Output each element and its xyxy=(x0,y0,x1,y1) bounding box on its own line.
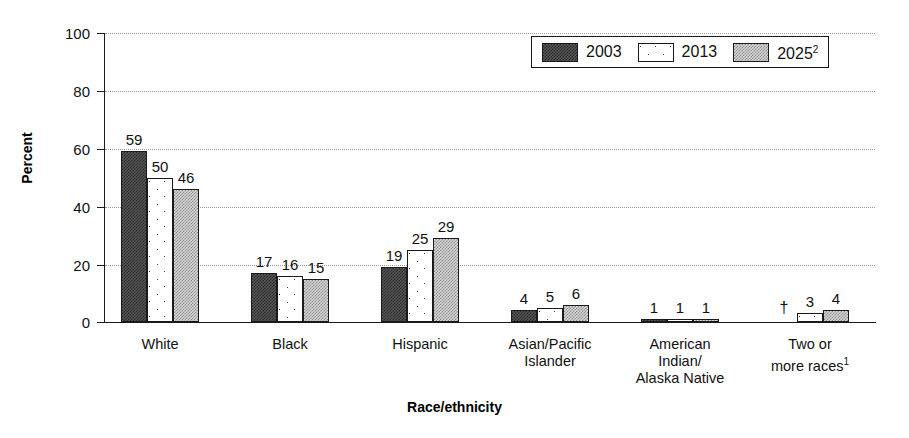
y-axis-title: Percent xyxy=(19,98,35,218)
plot-area xyxy=(105,33,875,322)
bar-value-2025-black: 15 xyxy=(295,260,337,275)
category-label-americanindianalaskanative: AmericanIndian/Alaska Native xyxy=(605,336,755,387)
legend-swatch-2003 xyxy=(542,43,578,62)
bar-2025-black xyxy=(303,279,329,322)
y-tick-label-40: 40 xyxy=(44,200,90,215)
bar-2013-hispanic xyxy=(407,250,433,322)
category-label-line: Asian/Pacific xyxy=(475,336,625,353)
bar-2003-black xyxy=(251,273,277,322)
bar-2003-white xyxy=(121,151,147,322)
bar-2003-asianpacificislander xyxy=(511,310,537,322)
category-label-line: more races1 xyxy=(735,353,885,375)
bar-2025-americanindianalaskanative xyxy=(693,319,719,322)
y-tick-label-0: 0 xyxy=(44,315,90,330)
legend-label-2025: 20252 xyxy=(777,42,818,62)
bar-value-2025-hispanic: 29 xyxy=(425,219,467,234)
bar-value-2025-white: 46 xyxy=(165,170,207,185)
bar-2013-americanindianalaskanative xyxy=(667,319,693,322)
bar-2025-asianpacificislander xyxy=(563,305,589,322)
category-label-white: White xyxy=(85,336,235,353)
gridline-100 xyxy=(105,33,875,34)
y-tick-60 xyxy=(97,149,105,150)
gridline-20 xyxy=(105,265,875,266)
bar-2013-asianpacificislander xyxy=(537,308,563,322)
x-axis-line xyxy=(105,322,876,323)
legend-label-2013: 2013 xyxy=(682,44,718,60)
legend-label-2025-superscript: 2 xyxy=(813,44,819,55)
bar-value-2003-white: 59 xyxy=(113,132,155,147)
x-axis-title: Race/ethnicity xyxy=(0,399,909,415)
gridline-40 xyxy=(105,207,875,208)
bar-value-2025-asianpacificislander: 6 xyxy=(555,286,597,301)
legend-label-2025-text: 2025 xyxy=(777,45,813,62)
category-label-twoormoreraces: Two ormore races1 xyxy=(735,336,885,375)
bar-value-2025-twoormoreraces: 4 xyxy=(815,291,857,306)
legend-item-2025: 20252 xyxy=(733,42,818,62)
category-label-superscript: 1 xyxy=(843,356,849,367)
category-label-line: Alaska Native xyxy=(605,370,755,387)
legend-item-2013: 2013 xyxy=(638,43,718,62)
bar-value-2025-americanindianalaskanative: 1 xyxy=(685,300,727,315)
category-label-line: Two or xyxy=(735,336,885,353)
y-axis-line xyxy=(104,33,105,323)
y-tick-40 xyxy=(97,207,105,208)
bar-2025-white xyxy=(173,189,199,322)
bar-2013-white xyxy=(147,178,173,323)
y-tick-100 xyxy=(97,33,105,34)
y-tick-label-60: 60 xyxy=(44,142,90,157)
legend-item-2003: 2003 xyxy=(542,43,622,62)
gridline-60 xyxy=(105,149,875,150)
y-tick-20 xyxy=(97,265,105,266)
bar-2025-twoormoreraces xyxy=(823,310,849,322)
category-label-line: Black xyxy=(215,336,365,353)
bar-2013-twoormoreraces xyxy=(797,313,823,322)
bar-2003-hispanic xyxy=(381,267,407,322)
category-label-asianpacificislander: Asian/PacificIslander xyxy=(475,336,625,370)
category-label-black: Black xyxy=(215,336,365,353)
category-label-hispanic: Hispanic xyxy=(345,336,495,353)
legend: 2003 2013 20252 xyxy=(531,36,829,68)
gridline-80 xyxy=(105,91,875,92)
legend-label-2003: 2003 xyxy=(586,44,622,60)
bar-2003-americanindianalaskanative xyxy=(641,319,667,322)
y-tick-label-100: 100 xyxy=(44,26,90,41)
bar-chart: 100 80 60 40 20 0 Percent Race/ethnicity… xyxy=(0,0,909,438)
legend-swatch-2013 xyxy=(638,43,674,62)
bar-2013-black xyxy=(277,276,303,322)
y-tick-label-80: 80 xyxy=(44,84,90,99)
legend-swatch-2025 xyxy=(733,43,769,62)
category-label-line: White xyxy=(85,336,235,353)
y-tick-label-20: 20 xyxy=(44,258,90,273)
category-label-line: Indian/ xyxy=(605,353,755,370)
bar-2025-hispanic xyxy=(433,238,459,322)
category-label-line: American xyxy=(605,336,755,353)
category-label-line: Hispanic xyxy=(345,336,495,353)
y-tick-0 xyxy=(97,322,105,323)
category-label-line: Islander xyxy=(475,353,625,370)
y-tick-80 xyxy=(97,91,105,92)
